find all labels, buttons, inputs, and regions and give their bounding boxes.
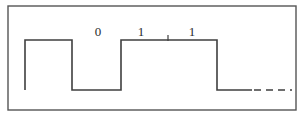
figure-border [8, 6, 296, 110]
waveform-figure: 0 1 1 [0, 0, 305, 116]
bit-label-1-first: 1 [133, 25, 149, 38]
signal-trace [25, 40, 252, 90]
waveform-canvas [0, 0, 305, 116]
bit-label-0: 0 [90, 25, 106, 38]
bit-label-1-second: 1 [184, 25, 200, 38]
